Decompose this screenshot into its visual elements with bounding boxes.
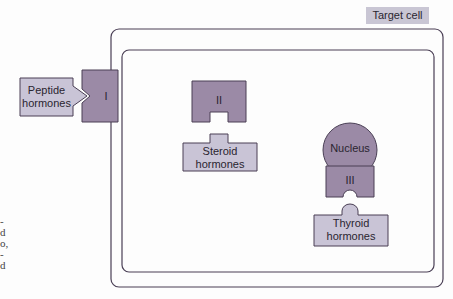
receptor-ii-label: II <box>192 94 246 107</box>
thyroid-hormones-line2: hormones <box>314 230 388 243</box>
peptide-hormones-line1: Peptide <box>20 84 73 97</box>
nucleus-label: Nucleus <box>323 142 377 155</box>
target-cell-label: Target cell <box>366 9 429 22</box>
thyroid-hormones-line1: Thyroid <box>314 217 388 230</box>
steroid-hormones-line1: Steroid <box>183 145 257 158</box>
edge-fragment-4: d <box>0 259 6 271</box>
cell-membrane-outer <box>111 29 443 287</box>
steroid-hormones-label: Steroid hormones <box>183 145 257 171</box>
thyroid-hormones-label: Thyroid hormones <box>314 217 388 243</box>
receptor-i-label: I <box>96 90 116 103</box>
receptor-iii-label: III <box>326 174 374 187</box>
peptide-hormones-line2: hormones <box>20 97 73 110</box>
steroid-hormones-line2: hormones <box>183 158 257 171</box>
peptide-hormones-label: Peptide hormones <box>20 84 73 110</box>
